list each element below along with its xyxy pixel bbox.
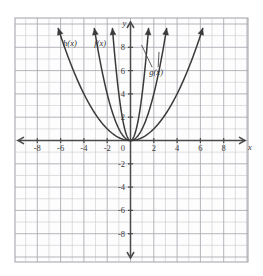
x-tick-label: 8 — [222, 143, 226, 153]
y-tick-label: -2 — [118, 159, 125, 169]
x-axis-label: x — [247, 142, 252, 152]
x-tick-label: -2 — [104, 143, 111, 153]
curve-label-g: g(x) — [149, 67, 163, 77]
coordinate-plane-svg: -8-6-4-224682468-2-4-6-8 x y 0 h(x) f(x)… — [0, 0, 263, 276]
y-tick-label: -6 — [118, 205, 125, 215]
graph-figure: -8-6-4-224682468-2-4-6-8 x y 0 h(x) f(x)… — [0, 0, 263, 276]
origin-label: 0 — [121, 143, 125, 153]
x-tick-label: 6 — [198, 143, 202, 153]
curve-label-h: h(x) — [63, 38, 77, 48]
y-tick-label: 6 — [121, 66, 125, 76]
x-tick-label: -4 — [80, 143, 88, 153]
x-tick-label: 2 — [152, 143, 156, 153]
y-tick-label: 8 — [121, 42, 125, 52]
y-tick-label: -8 — [118, 229, 125, 239]
x-tick-label: -6 — [57, 143, 64, 153]
curve-label-f: f(x) — [94, 38, 106, 48]
x-tick-label: 4 — [175, 143, 180, 153]
y-tick-label: -4 — [118, 182, 126, 192]
x-tick-label: -8 — [34, 143, 41, 153]
y-axis-label: y — [122, 18, 127, 28]
